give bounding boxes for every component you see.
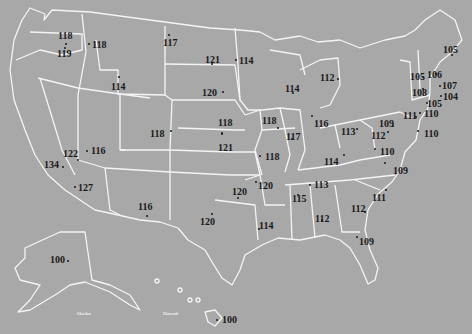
- value-label-indiana: 116: [314, 119, 328, 129]
- value-label-mississippi: 115: [292, 194, 306, 204]
- value-label-montana: 117: [163, 38, 177, 48]
- location-dot-massachusetts: [439, 85, 441, 87]
- value-label-louisiana: 114: [259, 221, 273, 231]
- value-label-nevada: 122: [63, 149, 78, 159]
- value-label-california: 134: [44, 160, 59, 170]
- location-dot-washington: [65, 43, 67, 45]
- value-label-colorado: 118: [150, 129, 164, 139]
- value-label-washington: 118: [58, 31, 72, 41]
- location-dot-south-carolina: [385, 189, 387, 191]
- value-label-maryland: 109: [379, 119, 394, 129]
- value-label-idaho: 118: [92, 40, 106, 50]
- value-label-kansas: 121: [218, 143, 233, 153]
- location-dot-wisconsin: [292, 92, 294, 94]
- location-dot-georgia: [364, 211, 366, 213]
- value-label-oregon: 119: [57, 49, 71, 59]
- location-dot-hawaii: [216, 319, 218, 321]
- location-dot-texas: [211, 213, 213, 215]
- location-dot-utah: [86, 150, 88, 152]
- value-label-alaska: 100: [50, 255, 65, 265]
- value-label-wyoming: 114: [111, 82, 125, 92]
- location-dot-louisiana: [258, 228, 260, 230]
- location-dot-alaska: [67, 260, 69, 262]
- value-label-new-jersey: 110: [424, 109, 438, 119]
- location-dot-florida: [356, 236, 358, 238]
- value-label-oklahoma: 120: [232, 187, 247, 197]
- location-dot-oregon: [64, 47, 66, 49]
- hawaii-label: Hawaii: [163, 311, 178, 316]
- value-label-hawaii: 100: [222, 315, 237, 325]
- value-label-illinois: 117: [286, 132, 300, 142]
- value-label-arkansas: 120: [258, 181, 273, 191]
- value-label-south-carolina: 111: [372, 193, 386, 203]
- alaska-label: Alaska: [76, 311, 91, 316]
- location-dot-missouri: [259, 155, 261, 157]
- alaska-outline: [15, 232, 140, 312]
- location-dot-new-york: [422, 88, 424, 90]
- value-label-minnesota: 114: [239, 56, 253, 66]
- location-dot-maine: [451, 54, 453, 56]
- value-label-florida: 109: [359, 237, 374, 247]
- value-label-arizona: 127: [78, 183, 93, 193]
- location-dot-indiana: [311, 115, 313, 117]
- value-label-new-hampshire: 106: [427, 70, 442, 80]
- location-dot-arkansas: [255, 181, 257, 183]
- location-dot-oklahoma: [237, 197, 239, 199]
- value-label-rhode-island: 104: [443, 92, 458, 102]
- value-label-tennessee: 113: [314, 180, 328, 190]
- location-dot-connecticut: [426, 102, 428, 104]
- value-label-north-carolina: 109: [393, 166, 408, 176]
- value-label-massachusetts: 107: [442, 81, 457, 91]
- location-dot-minnesota: [235, 59, 237, 61]
- location-dot-pennsylvania: [415, 116, 417, 118]
- hawaii-island: [205, 310, 222, 326]
- location-dot-maryland: [392, 125, 394, 127]
- location-dot-south-dakota: [222, 91, 224, 93]
- location-dot-north-dakota: [211, 63, 213, 65]
- location-dot-colorado: [170, 130, 172, 132]
- value-label-nebraska: 118: [218, 118, 232, 128]
- location-dot-montana: [168, 34, 170, 36]
- value-label-virginia: 110: [380, 147, 394, 157]
- value-label-utah: 116: [91, 146, 105, 156]
- location-dot-rhode-island: [440, 95, 442, 97]
- location-dot-west-virginia: [387, 131, 389, 133]
- value-label-iowa: 118: [262, 116, 276, 126]
- location-dot-iowa: [277, 127, 279, 129]
- location-dot-arizona: [74, 186, 76, 188]
- location-dot-vermont: [422, 76, 424, 78]
- location-dot-virginia: [374, 148, 376, 150]
- value-label-michigan: 112: [320, 73, 334, 83]
- value-label-new-mexico: 116: [138, 202, 152, 212]
- location-dot-california: [62, 166, 64, 168]
- location-dot-illinois: [291, 138, 293, 140]
- location-dot-kansas: [221, 133, 223, 135]
- value-label-delaware: 110: [424, 129, 438, 139]
- location-dot-kentucky: [343, 154, 345, 156]
- value-label-new-york: 108: [412, 88, 427, 98]
- location-dot-ohio: [356, 128, 358, 130]
- location-dot-nevada: [77, 159, 79, 161]
- value-label-west-virginia: 112: [371, 131, 385, 141]
- value-label-texas: 120: [200, 217, 215, 227]
- value-label-ohio: 113: [341, 127, 355, 137]
- value-label-south-dakota: 120: [202, 88, 217, 98]
- value-label-kentucky: 114: [324, 157, 338, 167]
- location-dot-idaho: [88, 43, 90, 45]
- location-dot-wyoming: [118, 76, 120, 78]
- value-label-missouri: 118: [265, 152, 279, 162]
- location-dot-new-jersey: [419, 112, 421, 114]
- location-dot-michigan: [337, 78, 339, 80]
- location-dot-new-hampshire: [435, 73, 437, 75]
- location-dot-delaware: [417, 130, 419, 132]
- location-dot-new-mexico: [146, 215, 148, 217]
- location-dot-tennessee: [309, 184, 311, 186]
- location-dot-alabama: [321, 219, 323, 221]
- location-dot-mississippi: [297, 194, 299, 196]
- location-dot-north-carolina: [384, 162, 386, 164]
